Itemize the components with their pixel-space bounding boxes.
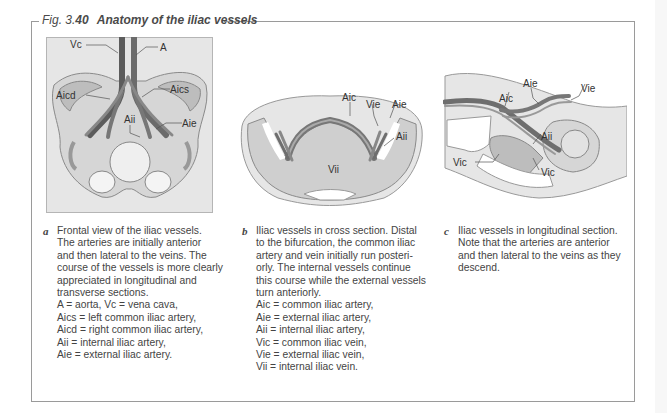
legend-line: Frontal view of the iliac vessels. — [57, 225, 232, 237]
label-vc: Vc — [70, 39, 82, 50]
legend-line: to the bifurcation, the common iliac — [256, 237, 436, 249]
figure-caption: Fig. 3.40Anatomy of the iliac vessels — [42, 13, 257, 27]
legend-line: Vie = external iliac vein, — [256, 349, 436, 361]
label-aie: Aie — [182, 118, 197, 129]
label-vii: Vii — [328, 164, 339, 175]
legend-line: descend. — [458, 262, 633, 274]
label-aii: Aii — [124, 114, 135, 125]
legend-line: Aie = external iliac artery, — [256, 312, 436, 324]
legend-line: The arteries are initially anterior — [57, 237, 232, 249]
panel-letter-a: a — [43, 225, 49, 237]
panel-b-legend: b Iliac vessels in cross section. Distal… — [256, 225, 436, 374]
label-aii: Aii — [396, 131, 407, 142]
frame-top-rule-left — [31, 21, 39, 22]
panel-c-illustration: Aie Vie Aic Aii Vic Vic — [443, 58, 627, 208]
legend-line: turn anteriorly. — [256, 287, 436, 299]
legend-line: orly. The internal vessels continue — [256, 262, 436, 274]
legend-line: Note that the arteries are anterior — [458, 237, 633, 249]
legend-line: artery and vein initially run posteri- — [256, 250, 436, 262]
legend-line: transverse sections. — [57, 287, 232, 299]
legend-line: and then lateral to the veins as they — [458, 250, 633, 262]
panel-letter-b: b — [242, 225, 248, 237]
label-vic-2: Vic — [541, 167, 555, 178]
legend-line: Iliac vessels in longitudinal section. — [458, 225, 633, 237]
legend-line: course of the vessels is more clearly — [57, 262, 232, 274]
panel-b-illustration: Aic Vie Aie Aii Vii — [234, 86, 428, 208]
legend-line: Aie = external iliac artery. — [57, 349, 232, 361]
label-aic: Aic — [499, 93, 513, 104]
legend-line: Aii = internal iliac artery, — [57, 337, 232, 349]
label-aicd: Aicd — [56, 90, 75, 101]
legend-line: Vii = internal iliac vein. — [256, 361, 436, 373]
legend-line: Aii = internal iliac artery, — [256, 324, 436, 336]
legend-line: Aics = left common iliac artery, — [57, 312, 232, 324]
figure-title: Anatomy of the iliac vessels — [97, 13, 258, 27]
frame-top-rule-right — [224, 21, 635, 22]
legend-line: Vic = common iliac vein, — [256, 337, 436, 349]
legend-line: Aicd = right common iliac artery, — [57, 324, 232, 336]
legend-line: this course while the external vessels — [256, 275, 436, 287]
legend-line: and then lateral to the veins. The — [57, 250, 232, 262]
panel-letter-c: c — [444, 225, 449, 237]
legend-line: Iliac vessels in cross section. Distal — [256, 225, 436, 237]
page-margin — [655, 0, 667, 413]
panel-c-legend: c Iliac vessels in longitudinal section.… — [458, 225, 633, 275]
label-a: A — [160, 42, 167, 53]
panel-a-illustration: Vc A Aicd Aics Aii Aie — [46, 37, 214, 214]
legend-line: A = aorta, Vc = vena cava, — [57, 299, 232, 311]
legend-line: appreciated in longitudinal and — [57, 275, 232, 287]
label-vie: Vie — [581, 83, 596, 94]
label-aie: Aie — [523, 78, 538, 89]
label-aii: Aii — [541, 131, 552, 142]
label-aics: Aics — [170, 84, 189, 95]
panel-a-legend: a Frontal view of the iliac vessels. The… — [57, 225, 232, 361]
label-aic: Aic — [342, 92, 356, 103]
legend-line: Aic = common iliac artery, — [256, 299, 436, 311]
label-aie: Aie — [392, 99, 407, 110]
figure-number: Fig. 3.40 — [42, 13, 89, 27]
label-vie: Vie — [366, 99, 381, 110]
label-vic-1: Vic — [453, 157, 467, 168]
